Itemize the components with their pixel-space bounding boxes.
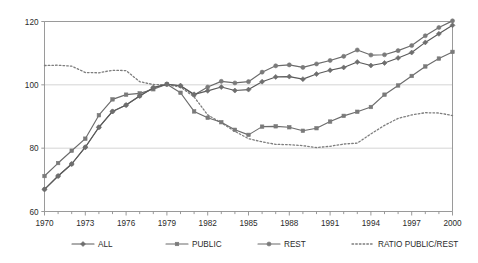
x-tick-label-1997: 1997 <box>403 219 422 228</box>
data-point-marker <box>314 62 318 66</box>
data-point-marker <box>97 113 101 117</box>
data-point-marker <box>382 53 386 57</box>
data-point-marker <box>328 58 332 62</box>
data-point-marker <box>219 79 223 83</box>
x-tick-label-1985: 1985 <box>239 219 258 228</box>
data-point-marker <box>70 149 74 153</box>
data-point-marker <box>451 50 455 54</box>
data-point-marker <box>111 98 115 102</box>
x-tick-label-1982: 1982 <box>199 219 218 228</box>
data-point-marker <box>355 48 359 52</box>
y-tick-label-80: 80 <box>29 144 39 153</box>
x-tick-label-1988: 1988 <box>280 219 299 228</box>
line-chart: 6080100120 19701973197619791982198519881… <box>0 0 478 263</box>
data-point-marker <box>246 80 250 84</box>
data-point-marker <box>124 93 128 97</box>
y-tick-label-60: 60 <box>29 208 39 217</box>
data-point-marker <box>206 116 210 120</box>
legend-label: RATIO PUBLIC/REST <box>378 240 458 249</box>
data-point-marker <box>192 110 196 114</box>
chart-container: 6080100120 19701973197619791982198519881… <box>0 0 478 263</box>
data-point-marker <box>423 34 427 38</box>
legend-label: PUBLIC <box>192 240 222 249</box>
data-point-marker <box>233 128 237 132</box>
data-point-marker <box>260 70 264 74</box>
legend-label: REST <box>284 240 306 249</box>
data-point-marker <box>328 120 332 124</box>
data-point-marker <box>43 174 47 178</box>
data-point-marker <box>410 74 414 78</box>
data-point-marker <box>301 129 305 133</box>
y-tick-label-100: 100 <box>25 81 39 90</box>
data-point-marker <box>233 81 237 85</box>
x-tick-label-1976: 1976 <box>117 219 136 228</box>
y-tick-label-120: 120 <box>25 18 39 27</box>
data-point-marker <box>424 65 428 69</box>
data-point-marker <box>220 120 224 124</box>
data-point-marker <box>274 64 278 68</box>
data-point-marker <box>301 65 305 69</box>
data-point-marker <box>179 91 183 95</box>
data-point-marker <box>410 44 414 48</box>
data-point-marker <box>287 63 291 67</box>
data-point-marker <box>288 126 292 129</box>
x-tick-label-1994: 1994 <box>362 219 381 228</box>
data-point-marker <box>84 137 88 141</box>
data-point-marker <box>437 57 441 61</box>
data-point-marker <box>369 105 373 109</box>
data-point-marker <box>260 125 264 129</box>
data-point-marker <box>369 53 373 57</box>
x-tick-label-1979: 1979 <box>158 219 177 228</box>
data-point-marker <box>450 19 454 23</box>
data-point-marker <box>437 25 441 29</box>
x-tick-label-1973: 1973 <box>76 219 95 228</box>
data-point-marker <box>274 125 278 129</box>
x-tick-label-1991: 1991 <box>321 219 340 228</box>
data-point-marker <box>396 49 400 53</box>
data-point-marker <box>247 133 251 137</box>
data-point-marker <box>342 114 346 118</box>
data-point-marker <box>267 242 271 246</box>
x-tick-label-1970: 1970 <box>35 219 54 228</box>
data-point-marker <box>356 110 360 114</box>
data-point-marker <box>56 161 60 165</box>
x-tick-label-2000: 2000 <box>443 219 462 228</box>
data-point-marker <box>342 54 346 58</box>
data-point-marker <box>175 242 179 246</box>
data-point-marker <box>396 84 400 88</box>
data-point-marker <box>315 126 319 130</box>
data-point-marker <box>383 93 387 97</box>
legend-label: ALL <box>98 240 113 249</box>
